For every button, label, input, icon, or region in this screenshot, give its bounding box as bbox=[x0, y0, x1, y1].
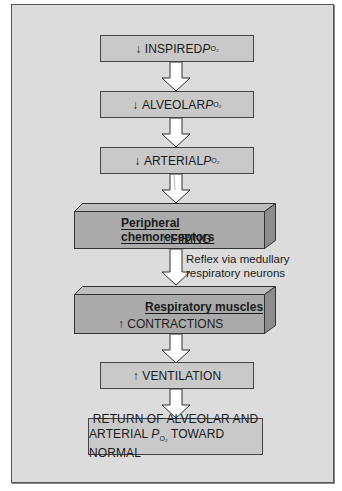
p-symbol: P bbox=[202, 42, 210, 56]
reflex-label-line1: Reflex via medullary bbox=[186, 252, 290, 266]
final-line1: RETURN OF ALVEOLAR AND bbox=[93, 412, 258, 427]
final-line2-pre: ARTERIAL bbox=[89, 427, 151, 441]
flow-arrow-1 bbox=[161, 62, 191, 92]
block-title: Respiratory muscles bbox=[145, 300, 263, 314]
down-arrow-icon: ↓ bbox=[135, 42, 141, 56]
block-status: ↑ CONTRACTIONS bbox=[118, 317, 223, 331]
box-alveolar-po2: ↓ ALVEOLAR PO₂ bbox=[100, 91, 254, 118]
box-label: INSPIRED bbox=[145, 42, 202, 56]
box-label: ARTERIAL bbox=[144, 154, 203, 168]
box-inspired-po2: ↓ INSPIRED PO₂ bbox=[100, 35, 254, 62]
up-arrow-icon: ↑ bbox=[161, 232, 167, 246]
o2-subscript: O₂ bbox=[159, 435, 167, 442]
block-status-text: FIRING bbox=[170, 232, 211, 246]
block-status: ↑ FIRING bbox=[161, 232, 211, 246]
reflex-label-line2: respiratory neurons bbox=[186, 266, 290, 280]
up-arrow-icon: ↑ bbox=[133, 369, 139, 383]
box-ventilation: ↑ VENTILATION bbox=[100, 362, 254, 389]
o2-subscript: O₂ bbox=[211, 157, 219, 164]
block-status-text: CONTRACTIONS bbox=[127, 317, 223, 331]
flow-arrow-2 bbox=[161, 118, 191, 148]
o2-subscript: O₂ bbox=[213, 101, 221, 108]
p-symbol: P bbox=[205, 98, 213, 112]
flow-arrow-5 bbox=[161, 334, 191, 364]
final-line2: ARTERIAL PO₂ TOWARD NORMAL bbox=[89, 427, 262, 461]
down-arrow-icon: ↓ bbox=[132, 98, 138, 112]
o2-subscript: O₂ bbox=[210, 45, 218, 52]
box-arterial-po2: ↓ ARTERIAL PO₂ bbox=[100, 147, 254, 174]
block-respiratory-muscles: Respiratory muscles ↑ CONTRACTIONS bbox=[74, 286, 276, 334]
reflex-label: Reflex via medullary respiratory neurons bbox=[186, 252, 290, 280]
flow-arrow-3 bbox=[161, 174, 191, 204]
p-symbol: P bbox=[203, 154, 211, 168]
box-return-toward-normal: RETURN OF ALVEOLAR AND ARTERIAL PO₂ TOWA… bbox=[88, 418, 263, 455]
box-label: VENTILATION bbox=[142, 369, 221, 383]
block-peripheral-chemoreceptors: Peripheral chemoreceptors ↑ FIRING bbox=[74, 203, 276, 249]
down-arrow-icon: ↓ bbox=[134, 154, 140, 168]
box-label: ALVEOLAR bbox=[142, 98, 205, 112]
up-arrow-icon: ↑ bbox=[118, 317, 124, 331]
